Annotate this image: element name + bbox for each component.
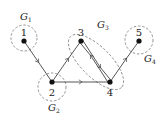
edge-2-3 [52,41,81,82]
node-3 [78,38,83,43]
node-label-5: 5 [136,27,142,38]
edge-1-2 [24,41,52,82]
graph-diagram: 1 2 3 4 5 G1 G2 G3 G4 [0,0,159,119]
group-label-g4: G4 [144,53,156,65]
group-label-g2: G2 [48,102,60,114]
node-label-2: 2 [49,87,55,98]
node-1 [21,38,26,43]
edges [24,40,139,83]
node-label-3: 3 [78,27,84,38]
node-label-1: 1 [21,27,27,38]
node-4 [107,79,112,84]
group-label-g3: G3 [97,19,109,31]
group-label-g1: G1 [20,11,32,23]
edge-3-4 [83,40,112,81]
node-2 [49,79,54,84]
group-g3-outline [60,26,132,98]
node-label-4: 4 [107,87,113,98]
edge-4-3 [80,42,109,83]
nodes [21,38,141,84]
node-5 [136,38,141,43]
edge-4-5 [110,41,139,82]
